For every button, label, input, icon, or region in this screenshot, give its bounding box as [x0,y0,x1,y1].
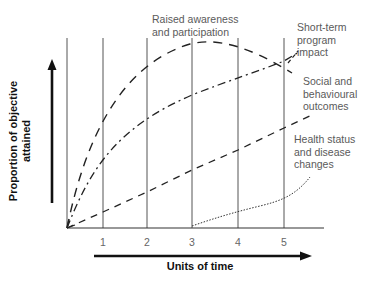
social-behavioural-curve [67,52,299,228]
dotted-curve [192,177,310,226]
social-label: Social and behavioural outcomes [303,75,357,113]
y-axis-title-line2: attained [20,66,33,216]
short-term-label: Short-term program impact [297,21,347,59]
awareness-curve [67,42,292,228]
awareness-label-line1: Raised awareness [152,13,238,26]
short-term-label-line2: program [297,34,347,47]
awareness-label-line2: and participation [152,26,238,39]
tick-5: 5 [277,236,291,248]
health-status-curve [67,115,312,228]
x-axis-title: Units of time [0,260,370,272]
social-label-line2: behavioural [303,88,357,101]
health-label-line2: and disease [294,146,355,159]
health-label: Health status and disease changes [294,133,355,171]
up-arrow-icon [48,59,57,70]
short-term-label-line3: impact [297,46,347,59]
tick-3: 3 [185,236,199,248]
tick-4: 4 [231,236,245,248]
short-term-label-line1: Short-term [297,21,347,34]
tick-1: 1 [96,236,110,248]
program-impact-diagram: 1 2 3 4 5 Units of time Proportion of ob… [0,0,370,283]
y-axis-title-line1: Proportion of objective [7,66,20,216]
y-axis-title: Proportion of objective attained [7,66,33,216]
health-label-line1: Health status [294,133,355,146]
awareness-label: Raised awareness and participation [152,13,238,38]
health-label-line3: changes [294,158,355,171]
time-gridlines [67,38,284,228]
social-label-line3: outcomes [303,100,357,113]
tick-2: 2 [140,236,154,248]
social-label-line1: Social and [303,75,357,88]
